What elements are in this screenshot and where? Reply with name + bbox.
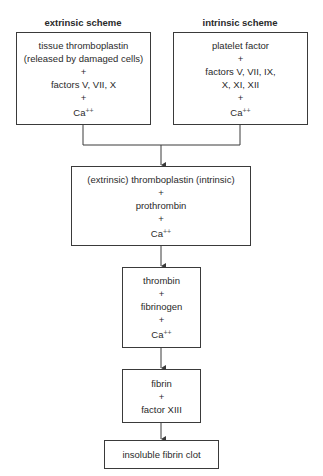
text-line: thrombin: [143, 274, 180, 287]
text-line: tissue thromboplastin: [39, 39, 129, 52]
thrombin-fibrinogen-box: thrombin + fibrinogen + Ca++: [122, 267, 201, 348]
intrinsic-scheme-header: intrinsic scheme: [173, 17, 307, 28]
text-line: fibrinogen: [141, 300, 183, 313]
extrinsic-box: tissue thromboplastin (released by damag…: [16, 32, 151, 125]
insoluble-fibrin-clot-box: insoluble fibrin clot: [104, 440, 219, 469]
text-line: factor XIII: [141, 403, 182, 416]
text-line: insoluble fibrin clot: [122, 448, 200, 461]
fibrin-factor-xiii-box: fibrin + factor XIII: [122, 369, 201, 423]
calcium-label: Ca++: [73, 104, 93, 119]
intrinsic-box: platelet factor + factors V, VII, IX, X,…: [173, 32, 308, 125]
text-line: factors V, VII, IX,: [205, 65, 275, 78]
plus-sign: +: [81, 65, 87, 78]
plus-sign: +: [159, 313, 165, 326]
text-line: platelet factor: [212, 39, 269, 52]
plus-sign: +: [238, 91, 244, 104]
calcium-label: Ca++: [151, 326, 171, 341]
extrinsic-scheme-header: extrinsic scheme: [16, 17, 150, 28]
thromboplastin-prothrombin-box: (extrinsic) thromboplastin (intrinsic) +…: [71, 166, 251, 246]
text-line: (extrinsic) thromboplastin (intrinsic): [87, 173, 234, 186]
text-line: (released by damaged cells): [24, 52, 143, 65]
text-line: factors V, VII, X: [51, 78, 116, 91]
text-line: fibrin: [151, 377, 172, 390]
calcium-label: Ca++: [151, 225, 171, 240]
text-line: X, XI, XII: [222, 78, 260, 91]
plus-sign: +: [159, 390, 165, 403]
plus-sign: +: [81, 91, 87, 104]
text-line: prothrombin: [136, 199, 187, 212]
plus-sign: +: [238, 52, 244, 65]
calcium-label: Ca++: [230, 104, 250, 119]
plus-sign: +: [158, 186, 164, 199]
plus-sign: +: [159, 287, 165, 300]
plus-sign: +: [158, 212, 164, 225]
